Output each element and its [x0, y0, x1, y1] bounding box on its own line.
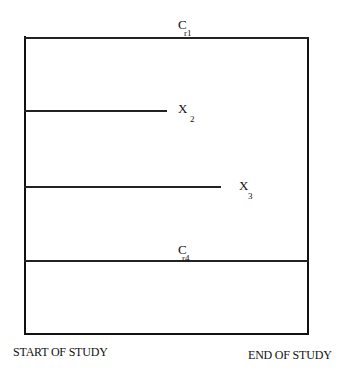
line-cr1	[24, 37, 309, 39]
box-right-edge	[307, 37, 309, 335]
label-x2: X	[178, 102, 187, 115]
subscript-x2: 2	[190, 115, 195, 124]
subscript-x3: 3	[248, 192, 253, 201]
end-of-study-label: END OF STUDY	[248, 349, 332, 361]
line-x2	[24, 110, 167, 112]
start-of-study-label: START OF STUDY	[13, 346, 108, 358]
box-bottom-edge	[24, 333, 309, 335]
subscript-cr4: r4	[182, 254, 190, 263]
line-cr4	[24, 260, 309, 262]
label-x3: X	[239, 179, 248, 192]
line-x3	[24, 186, 221, 188]
subscript-cr1: r1	[184, 29, 192, 38]
